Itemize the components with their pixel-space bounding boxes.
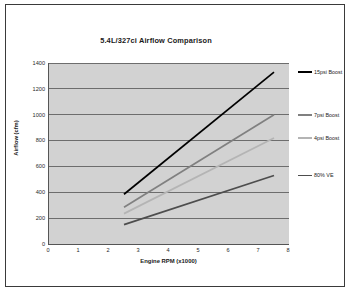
- x-tick-label: 4: [158, 247, 178, 253]
- x-axis-label: Engine RPM (x1000): [48, 258, 289, 264]
- x-tick-label: 6: [218, 247, 238, 253]
- legend-color-swatch: [298, 175, 312, 177]
- y-tick-label: 1400: [23, 60, 45, 66]
- y-tick-label: 600: [23, 163, 45, 169]
- x-tick-label: 3: [128, 247, 148, 253]
- x-axis-ticks: 012345678: [48, 247, 289, 257]
- x-tick-label: 7: [248, 247, 268, 253]
- legend-label: 15psi Boost: [314, 69, 342, 75]
- y-axis-ticks: 0200400600800100012001400: [20, 63, 45, 244]
- y-axis-label: Airflow (cfm): [13, 108, 19, 168]
- x-tick-label: 2: [98, 247, 118, 253]
- chart-legend: 15psi Boost7psi Boost4psi Boost80% VE: [298, 63, 354, 244]
- y-tick-label: 0: [23, 241, 45, 247]
- legend-item[interactable]: 4psi Boost: [298, 133, 339, 142]
- series-line: [124, 115, 274, 207]
- x-tick-label: 0: [38, 247, 58, 253]
- series-line: [124, 175, 274, 224]
- x-tick-label: 8: [278, 247, 298, 253]
- y-tick-label: 200: [23, 215, 45, 221]
- legend-color-swatch: [298, 137, 312, 139]
- y-tick-label: 1200: [23, 86, 45, 92]
- legend-item[interactable]: 80% VE: [298, 171, 333, 180]
- y-tick-label: 800: [23, 137, 45, 143]
- legend-label: 80% VE: [314, 172, 333, 178]
- legend-label: 4psi Boost: [314, 135, 339, 141]
- y-tick-label: 400: [23, 189, 45, 195]
- y-tick-label: 1000: [23, 112, 45, 118]
- x-tick-label: 1: [68, 247, 88, 253]
- x-tick-label: 5: [188, 247, 208, 253]
- plot-lines: [49, 63, 289, 244]
- chart-title: 5.4L/327ci Airflow Comparison: [6, 36, 306, 45]
- chart-frame: 5.4L/327ci Airflow Comparison Airflow (c…: [5, 4, 345, 287]
- legend-item[interactable]: 15psi Boost: [298, 68, 342, 77]
- legend-color-swatch: [298, 114, 312, 116]
- legend-label: 7psi Boost: [314, 112, 339, 118]
- legend-color-swatch: [298, 71, 312, 73]
- legend-item[interactable]: 7psi Boost: [298, 110, 339, 119]
- plot-area: [48, 63, 289, 245]
